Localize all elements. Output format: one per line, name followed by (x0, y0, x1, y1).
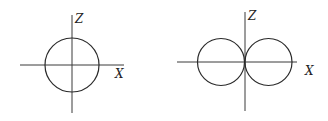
figure-canvas: Z X Z X (0, 0, 328, 121)
x-label-left: X (114, 67, 124, 81)
x-label-right: X (304, 64, 314, 78)
diagram-left: Z X (20, 12, 124, 113)
diagram-right: Z X (177, 9, 314, 111)
z-label-right: Z (247, 9, 257, 23)
z-label-left: Z (74, 12, 84, 26)
